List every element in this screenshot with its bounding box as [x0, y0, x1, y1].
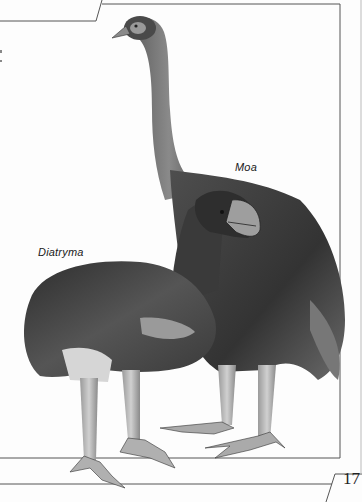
margin-marks [0, 50, 2, 62]
moa-illustration [112, 16, 345, 458]
diatryma-label: Diatryma [38, 246, 84, 258]
moa-label: Moa [235, 161, 257, 173]
page-number: 17 [343, 469, 360, 489]
book-page: Moa Diatryma 17 [0, 0, 362, 502]
